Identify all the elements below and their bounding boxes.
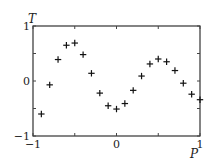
data-point [38,111,44,117]
tick-labels-group: −101−101 [14,20,204,151]
data-point [80,51,86,57]
data-point [172,67,178,73]
data-point [163,59,169,65]
data-point [130,87,136,93]
data-point [63,42,69,48]
data-point [197,97,203,103]
plot-frame-group [33,26,200,136]
data-point [138,73,144,79]
data-point [105,103,111,109]
data-point [47,82,53,88]
data-point [113,106,119,112]
y-tick-label: −1 [14,130,30,143]
data-point [97,90,103,96]
data-points-group [38,40,203,117]
data-point [155,56,161,62]
data-point [88,70,94,76]
data-point [55,56,61,62]
data-point [180,80,186,86]
x-axis-label: P [189,147,199,161]
y-tick-label: 0 [23,75,30,88]
scatter-chart: −101−101 T P [0,0,214,164]
y-axis-label: T [28,12,37,26]
data-point [122,100,128,106]
data-point [72,40,78,46]
x-tick-label: 0 [113,138,120,151]
data-point [188,91,194,97]
axis-ticks-group [33,26,200,136]
plot-frame [33,26,200,136]
data-point [147,61,153,67]
